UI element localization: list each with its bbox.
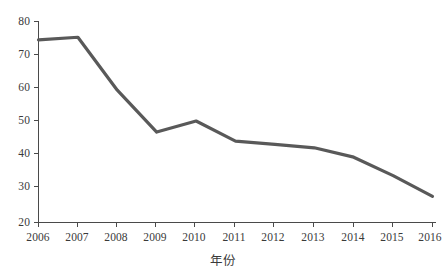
- x-tick-label-2007: 2007: [65, 231, 88, 243]
- x-tick-label-2012: 2012: [261, 231, 284, 243]
- x-tick-label-2008: 2008: [104, 231, 127, 243]
- x-tick-label-2011: 2011: [223, 231, 246, 243]
- x-axis-title: 年份: [210, 250, 236, 269]
- y-tick-label-30: 30: [8, 180, 30, 192]
- y-tick-label-80: 80: [8, 15, 30, 27]
- x-tick-label-2009: 2009: [143, 231, 166, 243]
- x-tick-label-2014: 2014: [341, 231, 364, 243]
- x-tick-label-2016: 2016: [418, 231, 441, 243]
- y-tick-label-70: 70: [8, 48, 30, 60]
- x-tick-label-2013: 2013: [301, 231, 324, 243]
- x-tick-label-2015: 2015: [380, 231, 403, 243]
- y-tick-label-40: 40: [8, 147, 30, 159]
- data-series-line: [39, 37, 433, 196]
- y-tick-label-20: 20: [8, 216, 30, 228]
- line-chart: 80 70 60 50 40 30 20 2006 2007 2008 2009…: [0, 0, 447, 276]
- y-tick-marks: [34, 22, 38, 223]
- y-tick-label-50: 50: [8, 114, 30, 126]
- x-tick-label-2006: 2006: [26, 231, 49, 243]
- y-tick-label-60: 60: [8, 81, 30, 93]
- x-tick-label-2010: 2010: [182, 231, 205, 243]
